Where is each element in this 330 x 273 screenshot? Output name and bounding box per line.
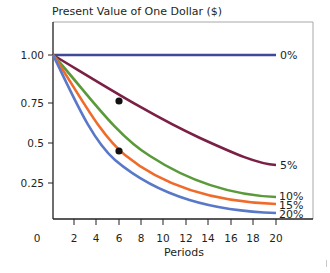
point-15-percent-period-6: [115, 147, 122, 154]
x-axis-label: Periods: [164, 246, 204, 259]
x-tick-label-6: 6: [116, 232, 123, 244]
x-origin-label: 0: [34, 232, 41, 244]
x-tick-label-4: 4: [93, 232, 100, 244]
series-label-20-percent: 20%: [279, 208, 303, 221]
x-tick-label-20: 20: [269, 232, 282, 244]
x-tick-label-12: 12: [179, 232, 192, 244]
y-tick-label-0-5: 0.5: [27, 137, 44, 149]
series-15-percent-line: [53, 55, 276, 204]
y-tick-label-0-25: 0.25: [21, 177, 44, 189]
y-tick-label-0-75: 0.75: [21, 97, 44, 109]
y-tick-label-1-00: 1.00: [21, 49, 44, 61]
y-ticks: [48, 55, 53, 183]
series-5-percent-line: [53, 55, 276, 165]
x-tick-label-18: 18: [246, 232, 259, 244]
plot-frame: [53, 22, 313, 219]
x-tick-label-16: 16: [224, 232, 238, 244]
x-ticks: [74, 219, 276, 225]
series-20-percent-line: [53, 55, 276, 213]
x-tick-label-8: 8: [138, 232, 145, 244]
edge-mark: [326, 260, 327, 267]
chart-canvas: 1.00 0.75 0.5 0.25 0 2 4 6 8 10 12 14 16…: [0, 0, 330, 273]
x-tick-label-10: 10: [156, 232, 169, 244]
series-label-5-percent: 5%: [280, 159, 297, 172]
x-tick-label-14: 14: [201, 232, 215, 244]
point-5-percent-period-6: [115, 97, 122, 104]
x-tick-label-2: 2: [71, 232, 78, 244]
series-label-0-percent: 0%: [280, 49, 297, 62]
